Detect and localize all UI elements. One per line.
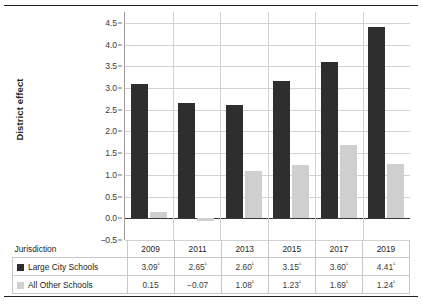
y-tick-label: 4.5 (105, 18, 117, 28)
legend-value-table: Jurisdiction 200920112013201520172019 La… (12, 240, 410, 294)
y-tick-label: 3.5 (105, 61, 117, 71)
y-tick-label: 2.0 (105, 126, 117, 136)
y-tick-mark (118, 174, 122, 175)
gridline-vertical (315, 12, 316, 240)
table-value-cell: 3.60¹ (315, 258, 362, 276)
y-tick-label: 3.0 (105, 83, 117, 93)
y-tick-mark (118, 88, 122, 89)
y-tick-mark (118, 44, 122, 45)
jurisdiction-header: Jurisdiction (13, 240, 128, 258)
figure-container: District effect 4.54.03.53.02.52.01.51.0… (0, 0, 422, 305)
y-tick-label: 1.0 (105, 170, 117, 180)
y-axis-ticks: 4.54.03.53.02.52.01.51.00.50.0−0.5 (99, 12, 121, 240)
plot-grid (124, 12, 410, 240)
bar-large-city-schools-2013 (226, 105, 243, 218)
bar-large-city-schools-2017 (321, 62, 338, 218)
footnote-marker: ¹ (252, 261, 254, 267)
footnote-marker: ¹ (299, 279, 301, 285)
table-year-header: 2015 (268, 240, 315, 258)
table-year-header: 2011 (174, 240, 221, 258)
legend-label: All Other Schools (28, 280, 93, 290)
table-value-cell: 2.65¹ (174, 258, 221, 276)
legend-swatch-icon (17, 282, 24, 289)
y-tick-label: 0.0 (105, 213, 117, 223)
footnote-marker: ¹ (299, 261, 301, 267)
y-tick-mark (118, 22, 122, 23)
bar-large-city-schools-2009 (131, 84, 148, 218)
footnote-marker: ¹ (158, 261, 160, 267)
table-header-row: Jurisdiction 200920112013201520172019 (13, 240, 410, 258)
y-tick-mark (118, 218, 122, 219)
table-value-cell: 1.08¹ (221, 276, 268, 294)
top-rule (4, 5, 418, 6)
bar-large-city-schools-2019 (368, 27, 385, 219)
bar-all-other-schools-2017 (340, 145, 357, 218)
legend-label: Large City Schools (28, 262, 98, 272)
y-tick-mark (118, 153, 122, 154)
y-tick-label: 0.5 (105, 192, 117, 202)
legend-item-all-other-schools[interactable]: All Other Schools (13, 276, 128, 294)
data-table: Jurisdiction 200920112013201520172019 La… (12, 240, 410, 294)
bottom-rule (4, 296, 418, 297)
table-value-cell: 2.60¹ (221, 258, 268, 276)
bar-all-other-schools-2013 (245, 171, 262, 218)
y-tick-label: 2.5 (105, 105, 117, 115)
bar-all-other-schools-2019 (387, 164, 404, 218)
legend-item-large-city-schools[interactable]: Large City Schools (13, 258, 128, 276)
footnote-marker: ¹ (393, 261, 395, 267)
y-axis-label: District effect (14, 60, 25, 160)
table-value-cell: 3.15¹ (268, 258, 315, 276)
footnote-marker: ¹ (205, 261, 207, 267)
table-value-cell: 1.23¹ (268, 276, 315, 294)
bar-chart: District effect 4.54.03.53.02.52.01.51.0… (0, 12, 422, 240)
y-tick-mark (118, 196, 122, 197)
footnote-marker: ¹ (252, 279, 254, 285)
table-year-header: 2009 (127, 240, 174, 258)
y-tick-mark (118, 66, 122, 67)
y-tick-mark (118, 109, 122, 110)
bar-all-other-schools-2011 (197, 218, 214, 221)
gridline-vertical (363, 12, 364, 240)
footnote-marker: ¹ (346, 279, 348, 285)
table-value-cell: 1.69¹ (315, 276, 362, 294)
table-row: Large City Schools3.09¹2.65¹2.60¹3.15¹3.… (13, 258, 410, 276)
table-year-header: 2017 (315, 240, 362, 258)
table-year-header: 2013 (221, 240, 268, 258)
y-tick-mark (118, 131, 122, 132)
gridline-vertical (268, 12, 269, 240)
bar-large-city-schools-2011 (178, 103, 195, 218)
table-value-cell: 0.15 (127, 276, 174, 294)
table-value-cell: 4.41¹ (362, 258, 409, 276)
bar-all-other-schools-2009 (150, 212, 167, 219)
table-row: All Other Schools0.15−0.071.08¹1.23¹1.69… (13, 276, 410, 294)
footnote-marker: ¹ (346, 261, 348, 267)
bar-large-city-schools-2015 (273, 81, 290, 218)
table-year-header: 2019 (362, 240, 409, 258)
table-value-cell: 3.09¹ (127, 258, 174, 276)
table-value-cell: 1.24¹ (362, 276, 409, 294)
table-value-cell: −0.07 (174, 276, 221, 294)
bar-all-other-schools-2015 (292, 165, 309, 218)
footnote-marker: ¹ (393, 279, 395, 285)
legend-swatch-icon (17, 264, 24, 271)
gridline-vertical (220, 12, 221, 240)
gridline-vertical (173, 12, 174, 240)
y-tick-label: 4.0 (105, 40, 117, 50)
y-tick-label: 1.5 (105, 148, 117, 158)
